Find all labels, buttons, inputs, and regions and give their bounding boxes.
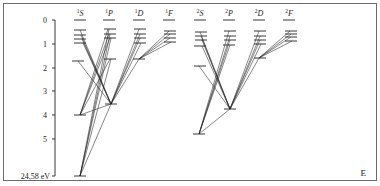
term-label-2F: 2F bbox=[285, 8, 293, 18]
energy-level-diagram: 0 1 2 3 4 5 24,58 eV 1S 1P 1D 1F 2S 2P 2… bbox=[0, 0, 380, 186]
term-label-1F: 1F bbox=[165, 8, 173, 18]
energy-axis-label: E bbox=[361, 168, 367, 178]
term-label-1D: 1D bbox=[135, 8, 144, 18]
tick-label: 4 bbox=[43, 111, 47, 120]
tick-label: 5 bbox=[43, 135, 47, 144]
term-label-2D: 2D bbox=[255, 8, 264, 18]
tick-label: 24,58 eV bbox=[21, 172, 51, 181]
axis-tick-labels: 0 1 2 3 4 5 24,58 eV bbox=[21, 16, 51, 181]
tick-label: 1 bbox=[43, 40, 47, 49]
term-label-1P: 1P bbox=[105, 8, 113, 18]
energy-axis bbox=[52, 20, 55, 176]
term-labels: 1S 1P 1D 1F 2S 2P 2D 2F bbox=[77, 8, 293, 18]
tick-label: 3 bbox=[43, 87, 47, 96]
tick-label: 0 bbox=[43, 16, 47, 25]
tick-label: 2 bbox=[43, 64, 47, 73]
term-label-2S: 2S bbox=[197, 8, 204, 18]
term-label-2P: 2P bbox=[225, 8, 233, 18]
term-label-1S: 1S bbox=[77, 8, 84, 18]
transition-lines bbox=[78, 29, 292, 176]
